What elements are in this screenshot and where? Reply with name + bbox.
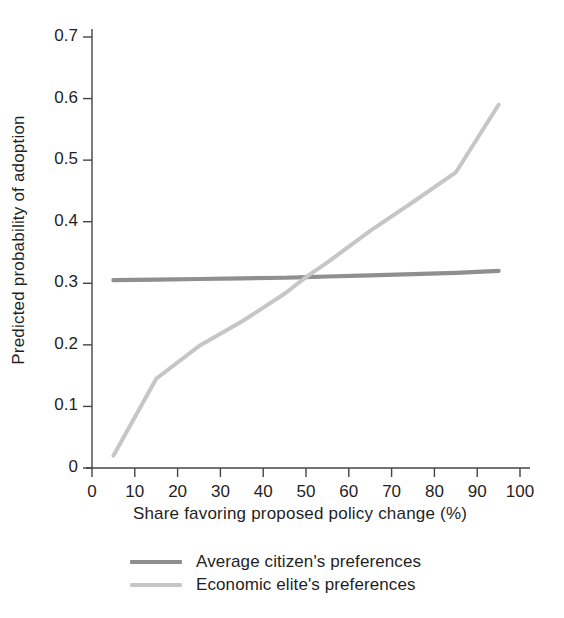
legend-label-economic-elite: Economic elite's preferences (196, 575, 416, 595)
y-tick-label: 0.4 (20, 211, 78, 231)
chart-figure: Predicted probability of adoption 00.10.… (0, 0, 564, 618)
x-axis-title: Share favoring proposed policy change (%… (133, 504, 467, 524)
data-series-layer (113, 105, 498, 456)
x-axis-title-container: Share favoring proposed policy change (%… (60, 500, 540, 528)
y-tick-label: 0.7 (20, 26, 78, 46)
axis-lines (83, 29, 530, 477)
x-tick-label: 100 (495, 482, 545, 502)
legend-item-average-citizen: Average citizen's preferences (130, 550, 450, 573)
y-tick-label: 0.6 (20, 88, 78, 108)
y-tick-label: 0 (20, 457, 78, 477)
chart-legend: Average citizen's preferences Economic e… (130, 550, 450, 596)
y-tick-label: 0.5 (20, 149, 78, 169)
y-tick-label: 0.2 (20, 334, 78, 354)
legend-label-average-citizen: Average citizen's preferences (196, 552, 421, 572)
legend-item-economic-elite: Economic elite's preferences (130, 573, 450, 596)
y-tick-label: 0.3 (20, 272, 78, 292)
legend-swatch-icon-average-citizen (130, 560, 182, 564)
legend-swatch-icon-economic-elite (130, 583, 182, 587)
y-tick-label: 0.1 (20, 395, 78, 415)
